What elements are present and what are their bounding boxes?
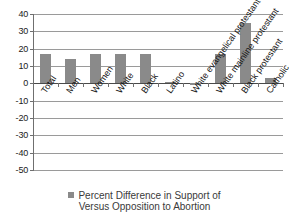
y-axis-tick-label: -30 [0,131,28,140]
gridline [33,153,283,154]
gridline [33,170,283,171]
x-axis-tick-mark [258,83,259,87]
y-axis-tick-label: -50 [0,166,28,175]
x-axis-tick-mark [208,83,209,87]
legend-line-1: Percent Difference in Support of [68,190,220,201]
y-axis-tick-mark [30,118,34,119]
y-axis-tick-label: 20 [0,45,28,54]
x-axis-tick-mark [233,83,234,87]
legend-label-part1: Percent Difference in Support of [78,190,220,201]
y-axis-tick-label: 40 [0,10,28,19]
y-axis-tick-mark [30,31,34,32]
legend-entry: Percent Difference in Support of Versus … [68,190,220,212]
y-axis-tick-mark [30,135,34,136]
x-axis-tick-mark [83,83,84,87]
y-axis-tick-label: -20 [0,114,28,123]
x-axis-tick-mark [108,83,109,87]
y-axis-tick-label: 0 [0,79,28,88]
y-axis-tick-mark [30,14,34,15]
gridline [33,118,283,119]
y-axis-tick-mark [30,49,34,50]
chart-legend: Percent Difference in Support of Versus … [0,190,289,214]
y-axis-tick-label: -10 [0,97,28,106]
y-axis-tick-label: 30 [0,27,28,36]
square-marker-icon [68,192,74,198]
legend-line-2: Versus Opposition to Abortion [68,201,220,212]
gridline [33,135,283,136]
x-axis-tick-mark [133,83,134,87]
gridline [33,101,283,102]
chart-container: 403020100-10-20-30-40-50 TotalMenWomenWh… [0,0,289,224]
x-axis-tick-mark [158,83,159,87]
y-axis-tick-mark [30,101,34,102]
y-axis-tick-mark [30,83,34,84]
y-axis-tick-label: 10 [0,62,28,71]
x-axis-tick-mark [183,83,184,87]
y-axis-tick-mark [30,153,34,154]
x-axis-tick-mark [283,83,284,87]
x-axis-tick-mark [58,83,59,87]
y-axis-tick-mark [30,170,34,171]
y-axis-tick-mark [30,66,34,67]
y-axis-tick-label: -40 [0,149,28,158]
